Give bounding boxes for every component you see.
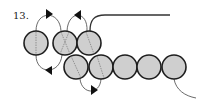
bead-weaving-diagram	[0, 0, 203, 103]
bead-top-1	[24, 31, 48, 55]
thread-loop-bottom-middle	[80, 79, 101, 91]
arrow-left-icon	[45, 66, 52, 75]
arrow-right-icon	[91, 85, 98, 95]
arrow-right-icon	[46, 9, 53, 19]
bead-top-3	[77, 31, 101, 55]
thread-loop-top-right	[67, 15, 87, 31]
bead-bottom-3	[113, 55, 137, 79]
bead-top-2	[53, 31, 77, 55]
bead-bottom-5	[162, 55, 186, 79]
thread-loop-top-left	[36, 15, 61, 31]
bead-bottom-2	[89, 55, 113, 79]
thread-tail-top	[90, 15, 170, 31]
bead-bottom-4	[137, 55, 161, 79]
bead-bottom-1	[64, 55, 88, 79]
arrow-left-icon	[74, 10, 81, 20]
thread-tail-bottom	[174, 79, 196, 98]
